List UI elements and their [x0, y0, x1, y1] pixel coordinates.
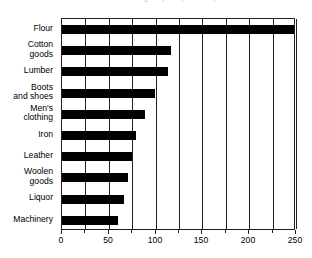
x-tick-major	[108, 230, 109, 234]
bar-row	[62, 104, 294, 125]
gridline	[296, 19, 297, 229]
x-tick-label: 250	[288, 235, 302, 245]
category-axis-labels: FlourCotton goodsLumberBoots and shoesMe…	[0, 18, 57, 230]
bar	[62, 131, 136, 140]
bar-row	[62, 210, 294, 231]
bar-row	[62, 125, 294, 146]
x-tick-minor	[131, 230, 132, 233]
x-tick-major	[248, 230, 249, 234]
x-tick-minor	[225, 230, 226, 233]
bar-row	[62, 83, 294, 104]
bars-layer	[62, 19, 294, 229]
x-tick-minor	[84, 230, 85, 233]
bar	[62, 67, 168, 76]
x-tick-minor	[178, 230, 179, 233]
category-label: Liquor	[0, 193, 53, 203]
x-tick-major	[155, 230, 156, 234]
category-label: Woolen goods	[0, 167, 53, 186]
bar	[62, 25, 294, 34]
bar	[62, 195, 124, 204]
category-label: Cotton goods	[0, 40, 53, 59]
clipped-title-text: manufacturing output by industry	[0, 0, 312, 3]
x-tick-minor	[272, 230, 273, 233]
category-label: Iron	[0, 130, 53, 140]
bar	[62, 152, 132, 161]
bar-row	[62, 189, 294, 210]
x-tick-label: 50	[103, 235, 113, 245]
bar	[62, 216, 118, 225]
x-tick-label: 200	[241, 235, 255, 245]
x-tick-major	[201, 230, 202, 234]
category-label: Machinery	[0, 215, 53, 225]
x-tick-label: 100	[148, 235, 162, 245]
category-label: Flour	[0, 24, 53, 34]
bar	[62, 46, 171, 55]
plot-area	[61, 18, 295, 230]
category-label: Boots and shoes	[0, 83, 53, 102]
x-tick-label: 150	[194, 235, 208, 245]
x-tick-label: 0	[59, 235, 64, 245]
bar-row	[62, 19, 294, 40]
bar-chart-figure: manufacturing output by industry FlourCo…	[0, 0, 312, 258]
bar-row	[62, 61, 294, 82]
x-axis: 050100150200250	[61, 230, 295, 256]
bar-row	[62, 146, 294, 167]
bar-row	[62, 40, 294, 61]
category-label: Men's clothing	[0, 104, 53, 123]
x-tick-major	[295, 230, 296, 234]
bar-row	[62, 167, 294, 188]
category-label: Leather	[0, 151, 53, 161]
category-label: Lumber	[0, 66, 53, 76]
x-tick-major	[61, 230, 62, 234]
bar	[62, 110, 145, 119]
bar	[62, 89, 155, 98]
bar	[62, 173, 128, 182]
